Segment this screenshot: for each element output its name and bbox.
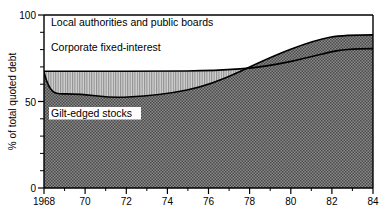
x-tick-label-80: 80 xyxy=(285,196,297,207)
series-label-corporate: Corporate fixed-interest xyxy=(51,41,161,53)
y-tick-labels: 100 50 0 xyxy=(19,10,36,194)
x-tick-label-78: 78 xyxy=(244,196,256,207)
y-tick-label-50: 50 xyxy=(25,97,37,108)
y-axis-ticks xyxy=(38,15,44,188)
x-tick-label-72: 72 xyxy=(121,196,133,207)
x-tick-labels: 1968 70 72 74 76 78 80 82 84 xyxy=(33,196,379,207)
x-axis-ticks xyxy=(44,188,373,194)
stacked-area-chart: 100 50 0 % of total quoted debt 1968 70 … xyxy=(0,0,389,215)
x-tick-label-74: 74 xyxy=(162,196,174,207)
chart-container: 100 50 0 % of total quoted debt 1968 70 … xyxy=(0,0,389,215)
x-tick-label-70: 70 xyxy=(80,196,92,207)
x-tick-label-1968: 1968 xyxy=(33,196,56,207)
series-label-local-authorities: Local authorities and public boards xyxy=(51,16,213,28)
y-tick-label-100: 100 xyxy=(19,10,36,21)
x-tick-label-76: 76 xyxy=(203,196,215,207)
y-axis-title: % of total quoted debt xyxy=(7,53,18,151)
x-tick-label-84: 84 xyxy=(367,196,379,207)
series-label-gilt-edged: Gilt-edged stocks xyxy=(51,107,132,119)
x-tick-label-82: 82 xyxy=(326,196,338,207)
y-tick-label-0: 0 xyxy=(30,183,36,194)
